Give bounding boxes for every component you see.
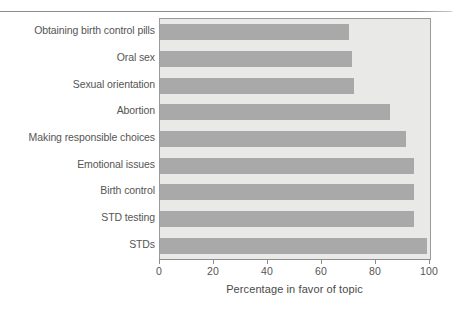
bar [160,238,427,254]
bar [160,158,414,174]
x-axis-title: Percentage in favor of topic [159,283,430,296]
category-label: Oral sex [14,52,155,63]
category-label: STD testing [14,212,155,223]
plot-area [159,18,431,260]
bar [160,78,354,94]
category-label: Sexual orientation [14,79,155,90]
x-tick-label: 60 [301,265,341,277]
bar [160,131,406,147]
x-tick-label: 40 [247,265,287,277]
bar [160,51,352,67]
x-tick-mark [213,259,214,264]
x-tick-label: 100 [409,265,449,277]
bar [160,104,390,120]
category-axis-labels: Obtaining birth control pillsOral sexSex… [14,18,155,258]
x-tick-mark [375,259,376,264]
x-tick-mark [429,259,430,264]
category-label: Making responsible choices [14,132,155,143]
category-label: Emotional issues [14,159,155,170]
category-label: STDs [14,239,155,250]
bar [160,211,414,227]
x-tick-mark [159,259,160,264]
category-label: Obtaining birth control pills [14,25,155,36]
bar [160,24,349,40]
category-label: Abortion [14,105,155,116]
x-tick-label: 0 [139,265,179,277]
bar [160,184,414,200]
x-tick-label: 20 [193,265,233,277]
x-tick-mark [321,259,322,264]
bar-chart: Obtaining birth control pillsOral sexSex… [0,0,461,309]
x-axis-line [159,259,430,260]
category-label: Birth control [14,185,155,196]
top-divider-rule [0,11,452,12]
x-tick-label: 80 [355,265,395,277]
x-tick-mark [267,259,268,264]
